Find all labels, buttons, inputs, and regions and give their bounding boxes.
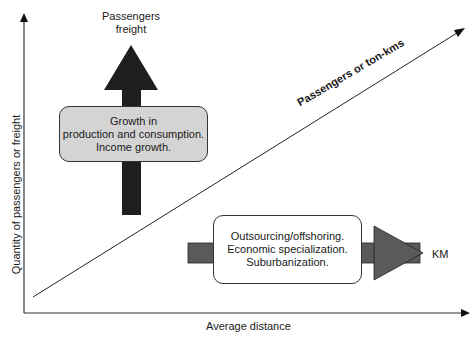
outsourcing-box: Outsourcing/offshoring. Economic special… [213,215,362,284]
km-label: KM [432,248,449,261]
label-line: Passengers [102,10,160,22]
diagram-canvas [0,0,476,342]
label-line: freight [116,23,147,35]
x-axis-arrowhead-icon [461,309,470,317]
x-axis-label: Average distance [206,320,291,333]
growth-box-line: production and consumption. [63,128,204,141]
outsourcing-box-line: Suburbanization. [227,256,347,269]
y-axis-arrowhead-icon [20,13,28,22]
diagonal-arrowhead-icon [454,28,465,37]
vertical-arrow-label: Passengers freight [101,10,161,36]
y-axis-label: Quantity of passengers or freight [10,115,23,275]
horizontal-arrow-head-icon [374,226,423,280]
growth-box-line: Income growth. [63,141,204,154]
outsourcing-box-line: Outsourcing/offshoring. [227,230,347,243]
outsourcing-box-line: Economic specialization. [227,243,347,256]
growth-box: Growth in production and consumption. In… [59,106,208,162]
growth-box-line: Growth in [63,115,204,128]
vertical-arrow-head-icon [104,45,158,90]
